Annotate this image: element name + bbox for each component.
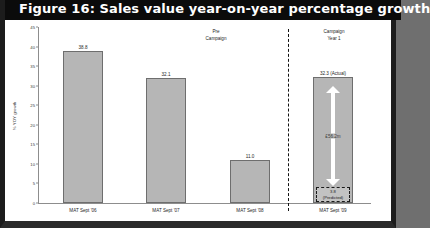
phase-label-campaign-year-1: Campaign Year 1 — [324, 29, 345, 42]
y-tick-10: 10 — [30, 161, 35, 166]
y-tick-30: 30 — [30, 83, 35, 88]
campaign-divider-line — [288, 29, 289, 211]
x-category-mat-sept-09: MAT Sept '09 — [319, 208, 346, 213]
predicted-value-box: 3.8 (Predicted) — [316, 187, 350, 202]
page-title: Figure 16: Sales value year-on-year perc… — [19, 1, 430, 16]
bar-mat-sept-07: 32.1 — [146, 78, 186, 204]
phase-campaign-line1: Campaign — [324, 29, 345, 36]
bar-mat-sept-08: 11.0 — [230, 160, 270, 203]
arrow-down-head-icon — [326, 179, 340, 186]
y-tickmark-15 — [36, 144, 38, 145]
y-tick-0: 0 — [33, 201, 35, 206]
y-tickmark-0 — [36, 203, 38, 204]
phase-pre-line1: Pre — [206, 29, 227, 36]
y-tick-25: 25 — [30, 103, 35, 108]
y-tickmark-40 — [36, 46, 38, 47]
bar-mat-sept-06: 38.8 — [63, 51, 103, 203]
y-tick-35: 35 — [30, 64, 35, 69]
y-tick-5: 5 — [33, 181, 35, 186]
y-tick-40: 40 — [30, 44, 35, 49]
y-tick-45: 45 — [30, 25, 35, 30]
y-tickmark-30 — [36, 85, 38, 86]
y-axis-title: % YOY growth — [12, 102, 17, 131]
y-tickmark-20 — [36, 124, 38, 125]
uplift-amount-label: £56.2m — [324, 134, 341, 139]
y-tick-15: 15 — [30, 142, 35, 147]
phase-campaign-line2: Year 1 — [324, 36, 345, 43]
uplift-arrow: £56.2m — [326, 86, 340, 186]
x-category-mat-sept-08: MAT Sept '08 — [236, 208, 263, 213]
phase-label-pre-campaign: Pre Campaign — [206, 29, 227, 42]
y-tickmark-35 — [36, 66, 38, 67]
y-tickmark-10 — [36, 163, 38, 164]
plot-area: 45 40 35 30 25 20 15 10 5 0 38.8 — [38, 27, 368, 203]
chart-canvas: % YOY growth 45 40 35 30 25 20 15 10 5 0 — [5, 20, 391, 221]
predicted-note: (Predicted) — [323, 195, 343, 200]
phase-pre-line2: Campaign — [206, 36, 227, 43]
y-tickmark-5 — [36, 183, 38, 184]
bar-mat-sept-09: 32.3 (Actual) £56.2m 3.8 (Predicted) — [313, 77, 353, 203]
y-tickmark-25 — [36, 105, 38, 106]
figure-title-bar: Figure 16: Sales value year-on-year perc… — [5, 0, 401, 20]
y-tickmark-45 — [36, 27, 38, 28]
x-category-mat-sept-07: MAT Sept '07 — [152, 208, 179, 213]
y-tick-20: 20 — [30, 122, 35, 127]
bar-value-label: 11.0 — [246, 154, 255, 159]
x-category-mat-sept-06: MAT Sept '06 — [69, 208, 96, 213]
bar-value-label: 38.8 — [79, 45, 88, 50]
bar-value-label: 32.3 (Actual) — [320, 71, 346, 76]
x-axis-line — [38, 203, 371, 204]
bar-value-label: 32.1 — [162, 72, 171, 77]
